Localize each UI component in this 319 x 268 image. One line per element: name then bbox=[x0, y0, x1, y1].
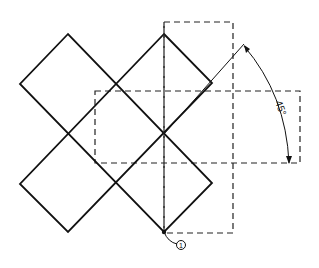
point-label: 1 bbox=[179, 242, 183, 249]
pivot-leader-line bbox=[164, 232, 177, 244]
solid-diagonal-band-b bbox=[20, 34, 212, 232]
dashed-vertical-arm bbox=[164, 22, 233, 233]
dashed-horizontal-arm bbox=[95, 91, 300, 163]
diagram-canvas: 45° 1 bbox=[0, 0, 319, 268]
rotation-reference-line bbox=[164, 44, 244, 134]
solid-diagonal-band-a bbox=[20, 34, 212, 232]
angle-label: 45° bbox=[273, 99, 289, 117]
